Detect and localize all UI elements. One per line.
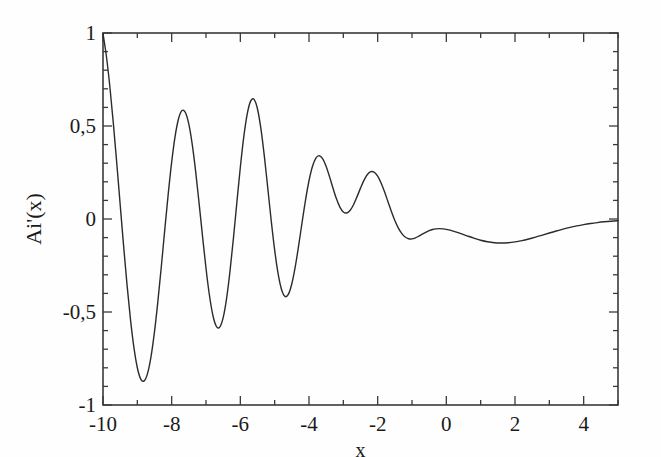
plot-canvas (0, 0, 661, 457)
x-tick-label: -4 (300, 414, 318, 435)
axis-ticks (103, 33, 618, 405)
x-tick-label: -10 (89, 414, 117, 435)
x-tick-label: -8 (163, 414, 181, 435)
x-axis-label: x (356, 439, 366, 457)
x-tick-label: 2 (510, 414, 521, 435)
y-tick-label: 0,5 (70, 116, 96, 137)
data-series-line (103, 34, 618, 382)
x-tick-label: 0 (441, 414, 452, 435)
y-tick-label: 0 (86, 209, 97, 230)
y-tick-label: -1 (79, 395, 97, 416)
chart-figure: -10-8-6-4-2024 -1-0,500,51 x Ai'(x) (0, 0, 661, 457)
y-axis-label: Ai'(x) (21, 193, 47, 245)
y-tick-label: -0,5 (63, 302, 96, 323)
y-tick-label: 1 (86, 23, 97, 44)
x-tick-label: 4 (578, 414, 589, 435)
plot-frame (103, 33, 618, 405)
x-tick-label: -6 (232, 414, 250, 435)
x-tick-label: -2 (369, 414, 387, 435)
